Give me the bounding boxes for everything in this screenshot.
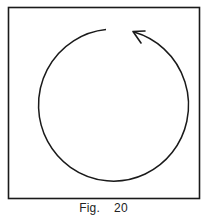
figure-diagram xyxy=(0,0,207,200)
figure-caption: Fig.20 xyxy=(0,201,207,215)
frame-border xyxy=(9,8,200,199)
caption-number: 20 xyxy=(114,201,128,215)
arrowhead-icon xyxy=(133,31,145,43)
caption-prefix: Fig. xyxy=(79,201,100,215)
circular-arrow-path xyxy=(39,30,189,182)
